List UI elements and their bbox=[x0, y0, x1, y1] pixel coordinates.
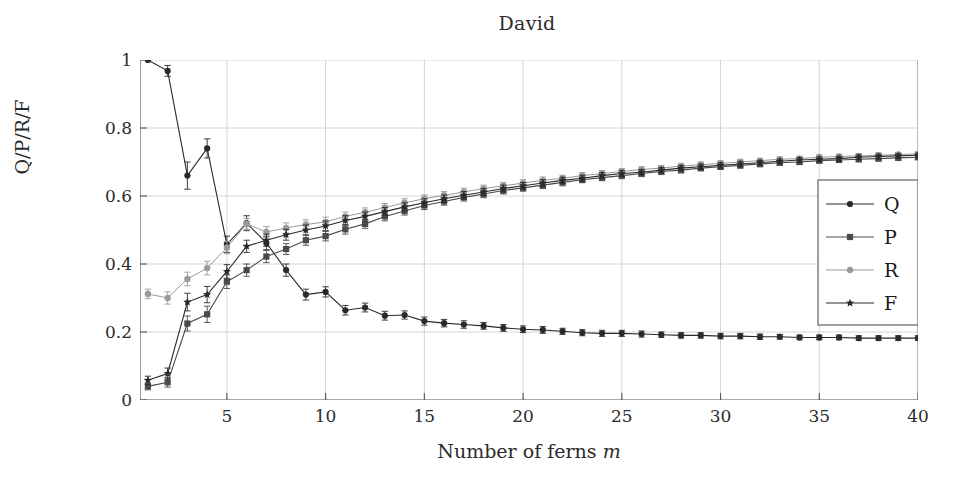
series-f bbox=[144, 151, 918, 384]
y-tick-label: 0.4 bbox=[84, 254, 140, 274]
legend-label: R bbox=[884, 259, 899, 281]
x-tick-label: 35 bbox=[808, 406, 830, 426]
data-point-marker bbox=[579, 330, 585, 336]
data-point-marker bbox=[737, 333, 743, 339]
y-axis-tick-labels: 00.20.40.60.81 bbox=[84, 60, 140, 400]
data-point-marker bbox=[856, 335, 862, 341]
data-point-marker bbox=[402, 312, 408, 318]
y-tick-label: 0 bbox=[84, 390, 140, 410]
data-point-marker bbox=[323, 233, 329, 239]
data-point-marker bbox=[204, 311, 210, 317]
data-point-marker bbox=[263, 253, 269, 259]
data-point-marker bbox=[362, 304, 368, 310]
series-line bbox=[148, 60, 918, 338]
y-axis-label: Q/P/R/F bbox=[11, 37, 33, 237]
data-point-marker bbox=[145, 60, 151, 63]
x-tick-label: 15 bbox=[413, 406, 435, 426]
data-point-marker bbox=[757, 334, 763, 340]
data-point-marker bbox=[204, 265, 210, 271]
x-axis-label-text: Number of ferns bbox=[437, 440, 596, 462]
x-tick-label: 40 bbox=[907, 406, 929, 426]
x-tick-label: 10 bbox=[315, 406, 337, 426]
data-point-marker bbox=[184, 276, 190, 282]
data-point-marker bbox=[342, 307, 348, 313]
data-point-marker bbox=[243, 221, 249, 227]
legend-label: F bbox=[884, 292, 897, 314]
data-point-marker bbox=[847, 267, 853, 273]
data-point-marker bbox=[224, 244, 230, 250]
series-p bbox=[145, 154, 918, 390]
y-tick-label: 0.2 bbox=[84, 322, 140, 342]
data-point-marker bbox=[638, 331, 644, 337]
series-line bbox=[148, 155, 918, 380]
data-point-marker bbox=[777, 334, 783, 340]
data-point-marker bbox=[184, 173, 190, 179]
data-point-marker bbox=[165, 68, 171, 74]
y-tick-label: 0.6 bbox=[84, 186, 140, 206]
plot-svg: QPRF bbox=[140, 60, 918, 400]
data-point-marker bbox=[875, 335, 881, 341]
data-point-marker bbox=[461, 321, 467, 327]
series-line bbox=[148, 157, 918, 386]
legend-label: P bbox=[884, 226, 897, 248]
data-point-marker bbox=[244, 267, 250, 273]
x-axis-label: Number of ferns m bbox=[140, 440, 918, 462]
data-point-marker bbox=[421, 318, 427, 324]
y-tick-label: 0.8 bbox=[84, 118, 140, 138]
data-point-marker bbox=[145, 291, 151, 297]
series-r bbox=[145, 151, 918, 304]
data-point-marker bbox=[323, 289, 329, 295]
data-point-marker bbox=[184, 320, 190, 326]
data-point-marker bbox=[500, 325, 506, 331]
x-axis-label-variable: m bbox=[603, 440, 621, 462]
data-point-marker bbox=[895, 335, 901, 341]
data-point-marker bbox=[441, 320, 447, 326]
data-point-marker bbox=[165, 379, 171, 385]
data-point-marker bbox=[164, 295, 170, 301]
data-point-marker bbox=[224, 279, 230, 285]
chart-figure: David Q/P/R/F 00.20.40.60.81 51015202530… bbox=[0, 0, 964, 489]
x-tick-label: 30 bbox=[710, 406, 732, 426]
data-point-marker bbox=[559, 328, 565, 334]
data-point-marker bbox=[678, 332, 684, 338]
x-tick-label: 20 bbox=[512, 406, 534, 426]
x-axis-tick-labels: 510152025303540 bbox=[140, 400, 918, 430]
data-point-marker bbox=[599, 330, 605, 336]
data-point-marker bbox=[698, 332, 704, 338]
data-point-marker bbox=[480, 323, 486, 329]
data-point-marker bbox=[303, 292, 309, 298]
data-point-marker bbox=[540, 327, 546, 333]
x-tick-label: 5 bbox=[221, 406, 232, 426]
data-point-marker bbox=[520, 326, 526, 332]
chart-title: David bbox=[0, 12, 964, 34]
data-point-marker bbox=[283, 246, 289, 252]
plot-area: QPRF bbox=[140, 60, 918, 400]
data-point-marker bbox=[796, 334, 802, 340]
data-point-marker bbox=[847, 201, 853, 207]
legend-label: Q bbox=[884, 193, 900, 215]
data-point-marker bbox=[204, 145, 210, 151]
data-point-marker bbox=[362, 221, 368, 227]
data-point-marker bbox=[619, 330, 625, 336]
data-point-marker bbox=[382, 313, 388, 319]
chart-title-text: David bbox=[498, 12, 555, 34]
series-line bbox=[148, 154, 918, 298]
x-tick-label: 25 bbox=[611, 406, 633, 426]
data-point-marker bbox=[303, 237, 309, 243]
data-point-marker bbox=[816, 334, 822, 340]
data-point-marker bbox=[717, 333, 723, 339]
legend: QPRF bbox=[818, 180, 918, 325]
y-tick-label: 1 bbox=[84, 50, 140, 70]
data-point-marker bbox=[342, 226, 348, 232]
data-point-marker bbox=[283, 267, 289, 273]
data-point-marker bbox=[836, 334, 842, 340]
data-point-marker bbox=[847, 234, 853, 240]
series-q bbox=[145, 60, 918, 341]
data-point-marker bbox=[658, 332, 664, 338]
